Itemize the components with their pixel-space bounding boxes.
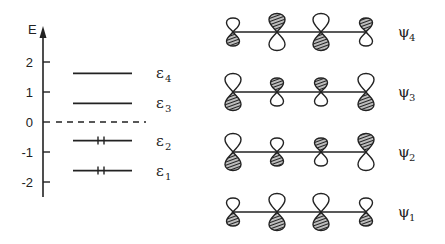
open-lobe bbox=[315, 92, 328, 106]
open-lobe bbox=[313, 194, 329, 212]
orbital-subscript: 2 bbox=[409, 152, 415, 163]
level-label: ε bbox=[156, 132, 164, 150]
hatched-lobe bbox=[269, 14, 285, 32]
hatched-lobe bbox=[271, 78, 284, 92]
open-lobe bbox=[358, 152, 374, 170]
orbital-label: ψ bbox=[398, 143, 410, 161]
hatched-lobe bbox=[271, 152, 284, 166]
open-lobe bbox=[360, 198, 373, 212]
open-lobe bbox=[360, 32, 373, 46]
level-subscript: 3 bbox=[165, 103, 171, 114]
open-lobe bbox=[271, 92, 284, 106]
open-lobe bbox=[225, 74, 241, 92]
orbital-subscript: 3 bbox=[409, 92, 415, 103]
hatched-lobe bbox=[313, 32, 329, 50]
open-lobe bbox=[227, 18, 240, 32]
level-label: ε bbox=[156, 162, 164, 180]
level-subscript: 2 bbox=[165, 141, 171, 152]
open-lobe bbox=[227, 198, 240, 212]
hatched-lobe bbox=[358, 134, 374, 152]
arrow-up-icon bbox=[40, 26, 47, 38]
orbital-label: ψ bbox=[398, 83, 410, 101]
tick-label: 2 bbox=[26, 55, 33, 70]
hatched-lobe bbox=[360, 212, 373, 226]
hatched-lobe bbox=[315, 138, 328, 152]
level-subscript: 1 bbox=[165, 171, 171, 182]
hatched-lobe bbox=[269, 212, 285, 230]
hatched-lobe bbox=[358, 92, 374, 110]
orbital-diagram: ψ4ψ3ψ2ψ1 bbox=[225, 14, 415, 231]
open-lobe bbox=[269, 194, 285, 212]
mo-diagram: E210-1-2ε4ε3ε2ε1 ψ4ψ3ψ2ψ1 bbox=[0, 0, 445, 244]
hatched-lobe bbox=[313, 212, 329, 230]
level-subscript: 4 bbox=[165, 73, 171, 84]
hatched-lobe bbox=[315, 78, 328, 92]
open-lobe bbox=[225, 134, 241, 152]
open-lobe bbox=[315, 152, 328, 166]
orbital-label: ψ bbox=[398, 203, 410, 221]
tick-label: 1 bbox=[26, 85, 33, 100]
level-label: ε bbox=[156, 64, 164, 82]
hatched-lobe bbox=[225, 152, 241, 170]
open-lobe bbox=[313, 14, 329, 32]
hatched-lobe bbox=[360, 18, 373, 32]
orbital-label: ψ bbox=[398, 23, 410, 41]
hatched-lobe bbox=[227, 212, 240, 226]
tick-label: -2 bbox=[21, 175, 33, 190]
open-lobe bbox=[271, 138, 284, 152]
open-lobe bbox=[269, 32, 285, 50]
level-label: ε bbox=[156, 94, 164, 112]
orbital-subscript: 4 bbox=[409, 32, 415, 43]
hatched-lobe bbox=[225, 92, 241, 110]
axis-label: E bbox=[28, 22, 37, 37]
open-lobe bbox=[358, 74, 374, 92]
energy-level-diagram: E210-1-2ε4ε3ε2ε1 bbox=[21, 22, 171, 197]
hatched-lobe bbox=[227, 32, 240, 46]
tick-label: -1 bbox=[21, 145, 33, 160]
tick-label: 0 bbox=[26, 115, 33, 130]
orbital-subscript: 1 bbox=[409, 212, 415, 223]
